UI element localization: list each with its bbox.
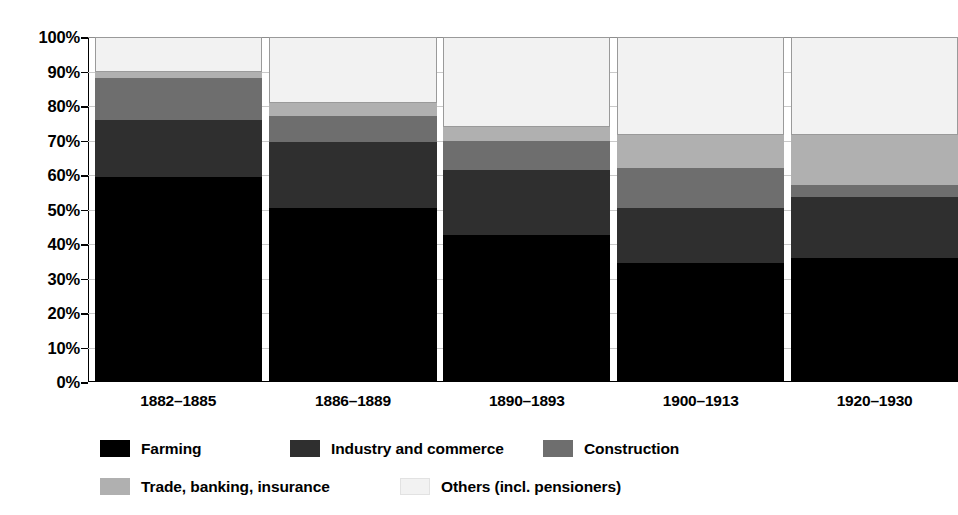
bar-group — [269, 37, 436, 382]
bar-segment — [95, 120, 262, 177]
y-axis-tick-label: 60% — [0, 166, 80, 185]
chart-legend: FarmingIndustry and commerceConstruction… — [0, 440, 917, 512]
y-axis-labels: 100%90%80%70%60%50%40%30%20%10%0% — [0, 37, 80, 382]
bar-group — [617, 37, 784, 382]
x-axis-labels: 1882–18851886–18891890–18931900–19131920… — [88, 392, 916, 418]
legend-label: Construction — [584, 441, 679, 457]
bar-segment — [95, 72, 262, 79]
bar-segment — [617, 135, 784, 168]
bar-group — [95, 37, 262, 382]
y-axis-tick-mark — [81, 279, 88, 281]
bar-segment — [443, 141, 610, 170]
legend-label: Trade, banking, insurance — [141, 479, 330, 495]
y-axis-tick-mark — [81, 175, 88, 177]
bar-segment — [95, 78, 262, 119]
bar-segment — [269, 37, 436, 103]
bar-segment — [443, 127, 610, 141]
bar-segment — [269, 208, 436, 382]
bar-segment — [443, 37, 610, 127]
y-axis-tick-label: 0% — [0, 373, 80, 392]
bar-segment — [617, 263, 784, 382]
bar-segment — [791, 185, 958, 197]
bar-segment — [269, 103, 436, 117]
bar-segment — [269, 116, 436, 142]
y-axis-tick-mark — [81, 106, 88, 108]
y-axis-tick-mark — [81, 313, 88, 315]
x-axis-tick-label: 1882–1885 — [140, 392, 216, 410]
y-axis-tick-label: 90% — [0, 62, 80, 81]
bar-segment — [791, 197, 958, 257]
x-axis-tick-label: 1920–1930 — [837, 392, 913, 410]
legend-swatch-icon — [543, 440, 573, 457]
bars-layer — [88, 37, 916, 382]
legend-label: Others (incl. pensioners) — [441, 479, 621, 495]
legend-label: Industry and commerce — [331, 441, 504, 457]
bar-segment — [443, 235, 610, 382]
legend-item[interactable]: Farming — [100, 440, 201, 457]
plot-area — [88, 37, 916, 382]
bar-segment — [791, 37, 958, 135]
y-axis-tick-label: 10% — [0, 338, 80, 357]
y-axis-tick-label: 20% — [0, 304, 80, 323]
bar-segment — [443, 170, 610, 235]
bar-segment — [617, 208, 784, 263]
bar-segment — [791, 135, 958, 185]
bar-segment — [95, 177, 262, 382]
legend-item[interactable]: Others (incl. pensioners) — [400, 478, 621, 495]
y-axis-tick-mark — [81, 141, 88, 143]
y-axis-tick-mark — [81, 382, 88, 384]
legend-swatch-icon — [100, 478, 130, 495]
bar-segment — [269, 142, 436, 208]
legend-swatch-icon — [100, 440, 130, 457]
legend-label: Farming — [141, 441, 201, 457]
bar-group — [443, 37, 610, 382]
x-axis-tick-label: 1890–1893 — [489, 392, 565, 410]
y-axis-tick-label: 80% — [0, 97, 80, 116]
y-axis-tick-mark — [81, 244, 88, 246]
bar-segment — [617, 168, 784, 208]
x-axis-tick-label: 1900–1913 — [663, 392, 739, 410]
legend-item[interactable]: Industry and commerce — [290, 440, 504, 457]
y-axis-tick-label: 100% — [0, 28, 80, 47]
legend-item[interactable]: Trade, banking, insurance — [100, 478, 330, 495]
y-axis-tick-label: 40% — [0, 235, 80, 254]
y-axis-tick-mark — [81, 37, 88, 39]
legend-swatch-icon — [290, 440, 320, 457]
bar-segment — [617, 37, 784, 135]
bar-segment — [791, 258, 958, 382]
y-axis-tick-label: 50% — [0, 200, 80, 219]
y-axis-tick-mark — [81, 348, 88, 350]
y-axis-tick-label: 30% — [0, 269, 80, 288]
legend-swatch-icon — [400, 478, 430, 495]
bar-segment — [95, 37, 262, 72]
y-axis-tick-label: 70% — [0, 131, 80, 150]
x-axis-tick-label: 1886–1889 — [315, 392, 391, 410]
y-axis-tick-mark — [81, 72, 88, 74]
bar-group — [791, 37, 958, 382]
y-axis-tick-mark — [81, 210, 88, 212]
legend-item[interactable]: Construction — [543, 440, 679, 457]
